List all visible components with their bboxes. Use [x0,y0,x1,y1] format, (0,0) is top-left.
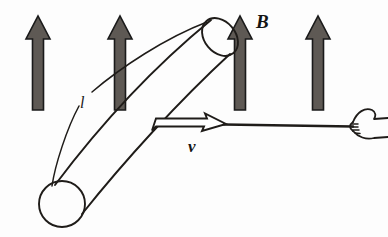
velocity-block-arrow [152,114,226,132]
length-leader-lower [52,106,79,186]
magnetic-field-arrow-group [26,16,330,110]
velocity-label: v [188,137,196,156]
pull-rod [224,125,353,127]
field-arrow-3 [228,16,252,110]
length-leader-lines [52,22,207,186]
length-leader-upper [92,22,207,92]
cylinder-bottom-cap [39,181,85,227]
field-arrow-2 [108,16,132,110]
field-arrow-1 [26,16,50,110]
hand-finger-line-4 [355,133,360,134]
cylinder-upper-edge [55,20,211,185]
hand-bottom-outline [353,131,388,139]
magnetic-field-label: B [255,11,269,32]
physics-figure: l v B [0,0,388,237]
hand-top-outline [353,109,388,122]
length-label: l [80,94,85,111]
field-arrow-4 [306,16,330,110]
gripping-hand [350,109,388,138]
cylinder-lower-edge [82,54,230,214]
figure-canvas: l v B [0,0,388,237]
